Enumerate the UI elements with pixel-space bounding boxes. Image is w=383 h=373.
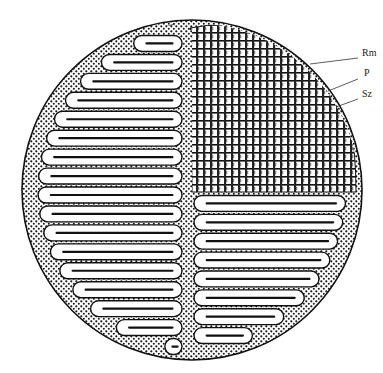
label-sz: Sz xyxy=(362,88,372,99)
central-axis xyxy=(183,30,192,365)
label-rm: Rm xyxy=(362,47,376,58)
label-p: P xyxy=(364,67,370,78)
leader-line-rm xyxy=(310,58,358,64)
cross-section-figure xyxy=(0,0,383,373)
grid-quadrant xyxy=(190,25,356,192)
leader-line-p xyxy=(328,79,358,91)
leader-line-sz xyxy=(336,99,358,107)
